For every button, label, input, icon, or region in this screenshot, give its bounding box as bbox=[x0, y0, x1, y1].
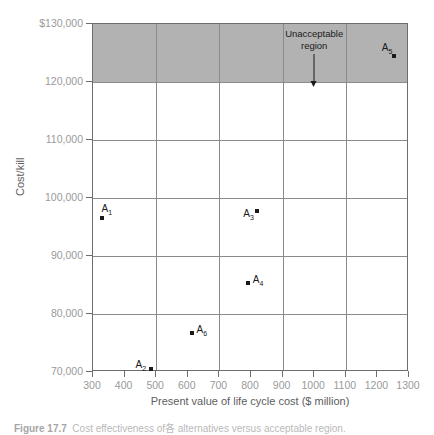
gridline-vertical bbox=[219, 24, 220, 370]
data-point bbox=[255, 209, 259, 213]
x-tick-mark bbox=[376, 371, 377, 377]
x-tick-mark bbox=[155, 371, 156, 377]
y-tick-label: 120,000 bbox=[45, 75, 83, 87]
x-axis-title: Present value of life cycle cost ($ mill… bbox=[92, 395, 408, 407]
annotation-arrow-down-icon bbox=[314, 54, 315, 82]
data-point bbox=[149, 367, 153, 371]
gridline-vertical bbox=[156, 24, 157, 370]
x-tick-mark bbox=[218, 371, 219, 377]
unacceptable-region-annotation: Unacceptable region bbox=[274, 28, 354, 52]
x-tick-label: 1300 bbox=[396, 379, 419, 391]
data-point-label: A6 bbox=[197, 325, 208, 337]
y-tick-label: 80,000 bbox=[51, 307, 83, 319]
x-tick-mark bbox=[345, 371, 346, 377]
gridline-horizontal bbox=[93, 140, 407, 141]
data-point bbox=[190, 331, 194, 335]
data-point-label: A5 bbox=[382, 43, 393, 55]
y-axis-title: Cost/kill bbox=[14, 157, 26, 196]
x-tick-label: 1200 bbox=[365, 379, 388, 391]
annotation-line-1: Unacceptable bbox=[274, 28, 354, 40]
x-tick-label: 1000 bbox=[302, 379, 325, 391]
y-tick-label: 110,000 bbox=[46, 133, 83, 145]
data-point-label: A4 bbox=[253, 275, 264, 287]
x-tick-mark bbox=[250, 371, 251, 377]
data-point bbox=[246, 281, 250, 285]
x-tick-label: 700 bbox=[210, 379, 228, 391]
y-tick-label: 100,000 bbox=[45, 191, 83, 203]
x-tick-mark bbox=[187, 371, 188, 377]
data-point bbox=[392, 54, 396, 58]
plot-area: A1A2A3A4A5A6 Unacceptable region bbox=[92, 23, 408, 371]
gridline-vertical bbox=[283, 24, 284, 370]
gridline-horizontal bbox=[93, 198, 407, 199]
gridline-vertical bbox=[346, 24, 347, 370]
x-tick-label: 400 bbox=[115, 379, 133, 391]
x-tick-label: 300 bbox=[83, 379, 101, 391]
x-tick-label: 1100 bbox=[334, 379, 357, 391]
data-point bbox=[100, 216, 104, 220]
gridline-horizontal bbox=[93, 82, 407, 83]
x-tick-mark bbox=[124, 371, 125, 377]
x-tick-label: 900 bbox=[273, 379, 291, 391]
x-tick-label: 800 bbox=[241, 379, 259, 391]
x-tick-label: 500 bbox=[146, 379, 164, 391]
y-tick-label: $130,000 bbox=[39, 17, 83, 29]
x-tick-mark bbox=[282, 371, 283, 377]
data-point-label: A1 bbox=[101, 204, 112, 216]
gridline-horizontal bbox=[93, 256, 407, 257]
x-tick-mark bbox=[408, 371, 409, 377]
x-tick-mark bbox=[92, 371, 93, 377]
x-tick-mark bbox=[313, 371, 314, 377]
unacceptable-region-band bbox=[93, 24, 407, 82]
gridline-horizontal bbox=[93, 314, 407, 315]
data-point-label: A3 bbox=[243, 209, 254, 221]
y-tick-label: 90,000 bbox=[51, 249, 83, 261]
x-tick-label: 600 bbox=[178, 379, 196, 391]
y-tick-label: 70,000 bbox=[51, 365, 83, 377]
data-point-label: A2 bbox=[135, 360, 146, 372]
annotation-line-2: region bbox=[274, 40, 354, 52]
figure-caption: Figure 17.7 Cost effectiveness of各 alter… bbox=[14, 420, 346, 435]
